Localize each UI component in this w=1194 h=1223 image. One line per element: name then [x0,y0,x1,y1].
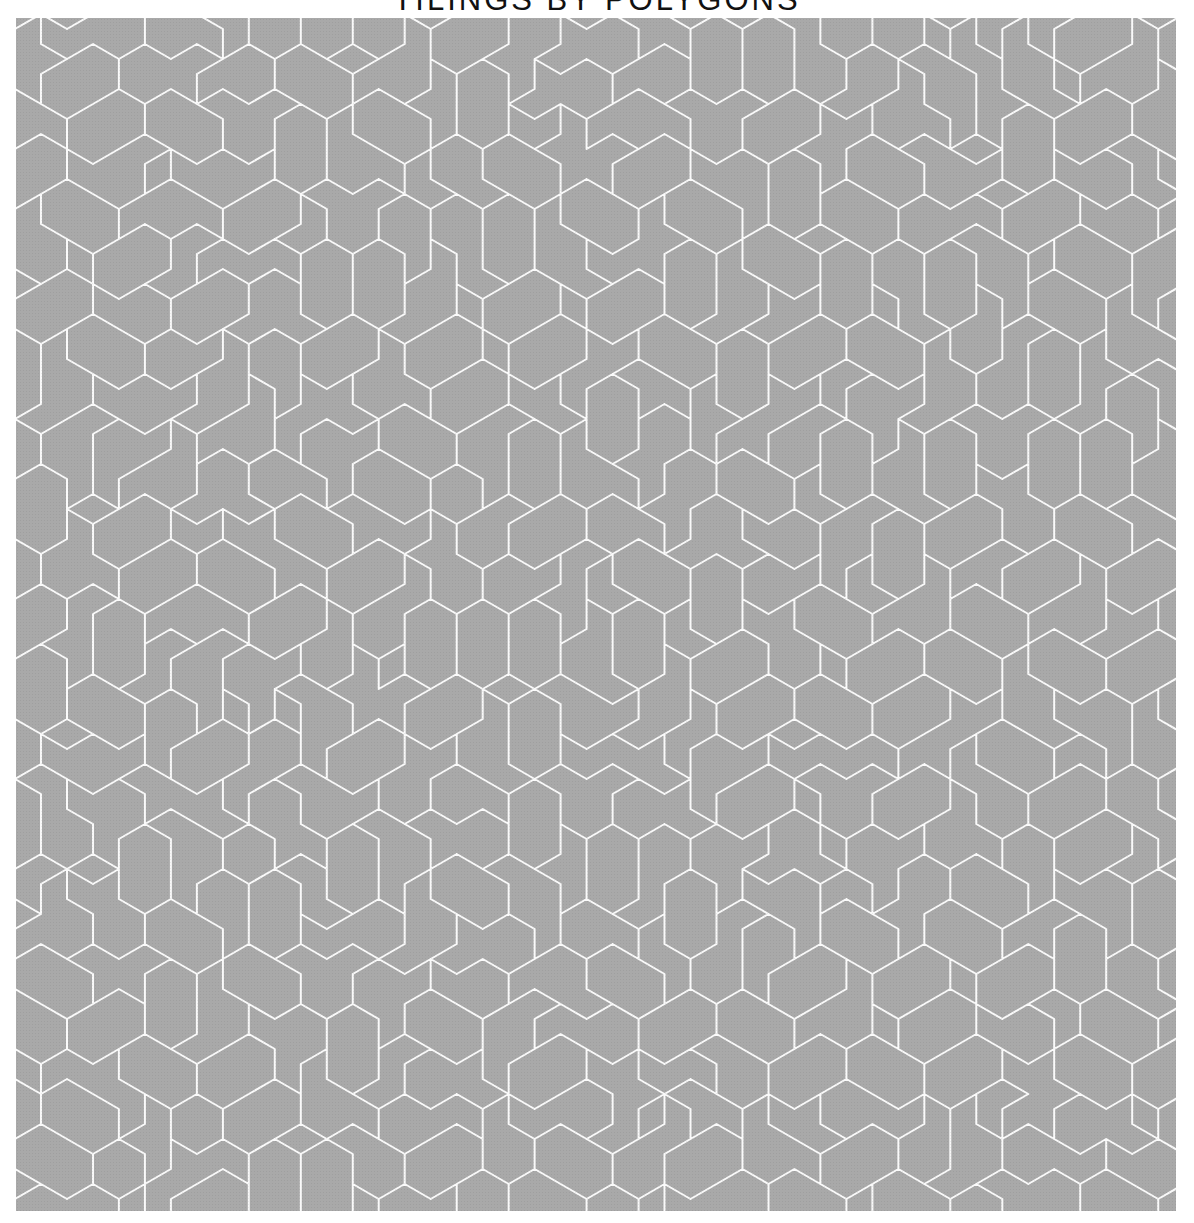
page-title: TILINGS BY POLYGONS [0,0,1194,15]
tiling-pattern-graphic [16,18,1176,1211]
tile-outlines [16,18,1176,1211]
tiling-figure [16,18,1176,1211]
